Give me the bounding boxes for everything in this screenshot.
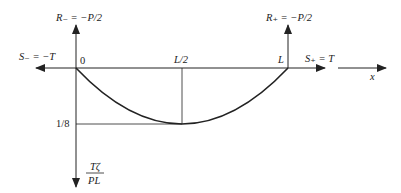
force-left-label: S₋ = −T (19, 51, 56, 62)
y-axis-denominator: PL (87, 175, 100, 186)
y-axis-numerator: Tζ (90, 161, 101, 173)
diagram-canvas: R₋ = −P/2 R₊ = −P/2 S₋ = −T S₊ = T 0 L/2… (0, 0, 401, 193)
min-value-label: 1/8 (56, 118, 69, 129)
force-right-label: S₊ = T (305, 53, 335, 64)
x-axis-label: x (369, 71, 375, 82)
reaction-left-label: R₋ = −P/2 (55, 12, 103, 23)
midpoint-label: L/2 (173, 54, 189, 65)
end-label: L (277, 54, 284, 65)
reaction-right-label: R₊ = −P/2 (265, 12, 313, 23)
origin-label: 0 (80, 55, 85, 66)
